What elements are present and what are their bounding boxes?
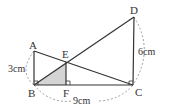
segment-bd xyxy=(34,17,134,85)
dimension-bc: 9cm xyxy=(73,95,90,106)
dimension-dc: 6cm xyxy=(138,46,155,57)
label-e: E xyxy=(62,48,69,60)
label-f: F xyxy=(63,87,69,99)
label-d: D xyxy=(130,4,138,16)
label-b: B xyxy=(28,87,35,99)
geometry-diagram: A B C D E F 3cm 6cm 9cm xyxy=(0,0,170,109)
dimension-ab: 3cm xyxy=(8,63,25,74)
dimension-arc-ab xyxy=(26,51,34,85)
label-c: C xyxy=(135,86,142,98)
segment-cd xyxy=(133,17,134,85)
label-a: A xyxy=(29,39,37,51)
